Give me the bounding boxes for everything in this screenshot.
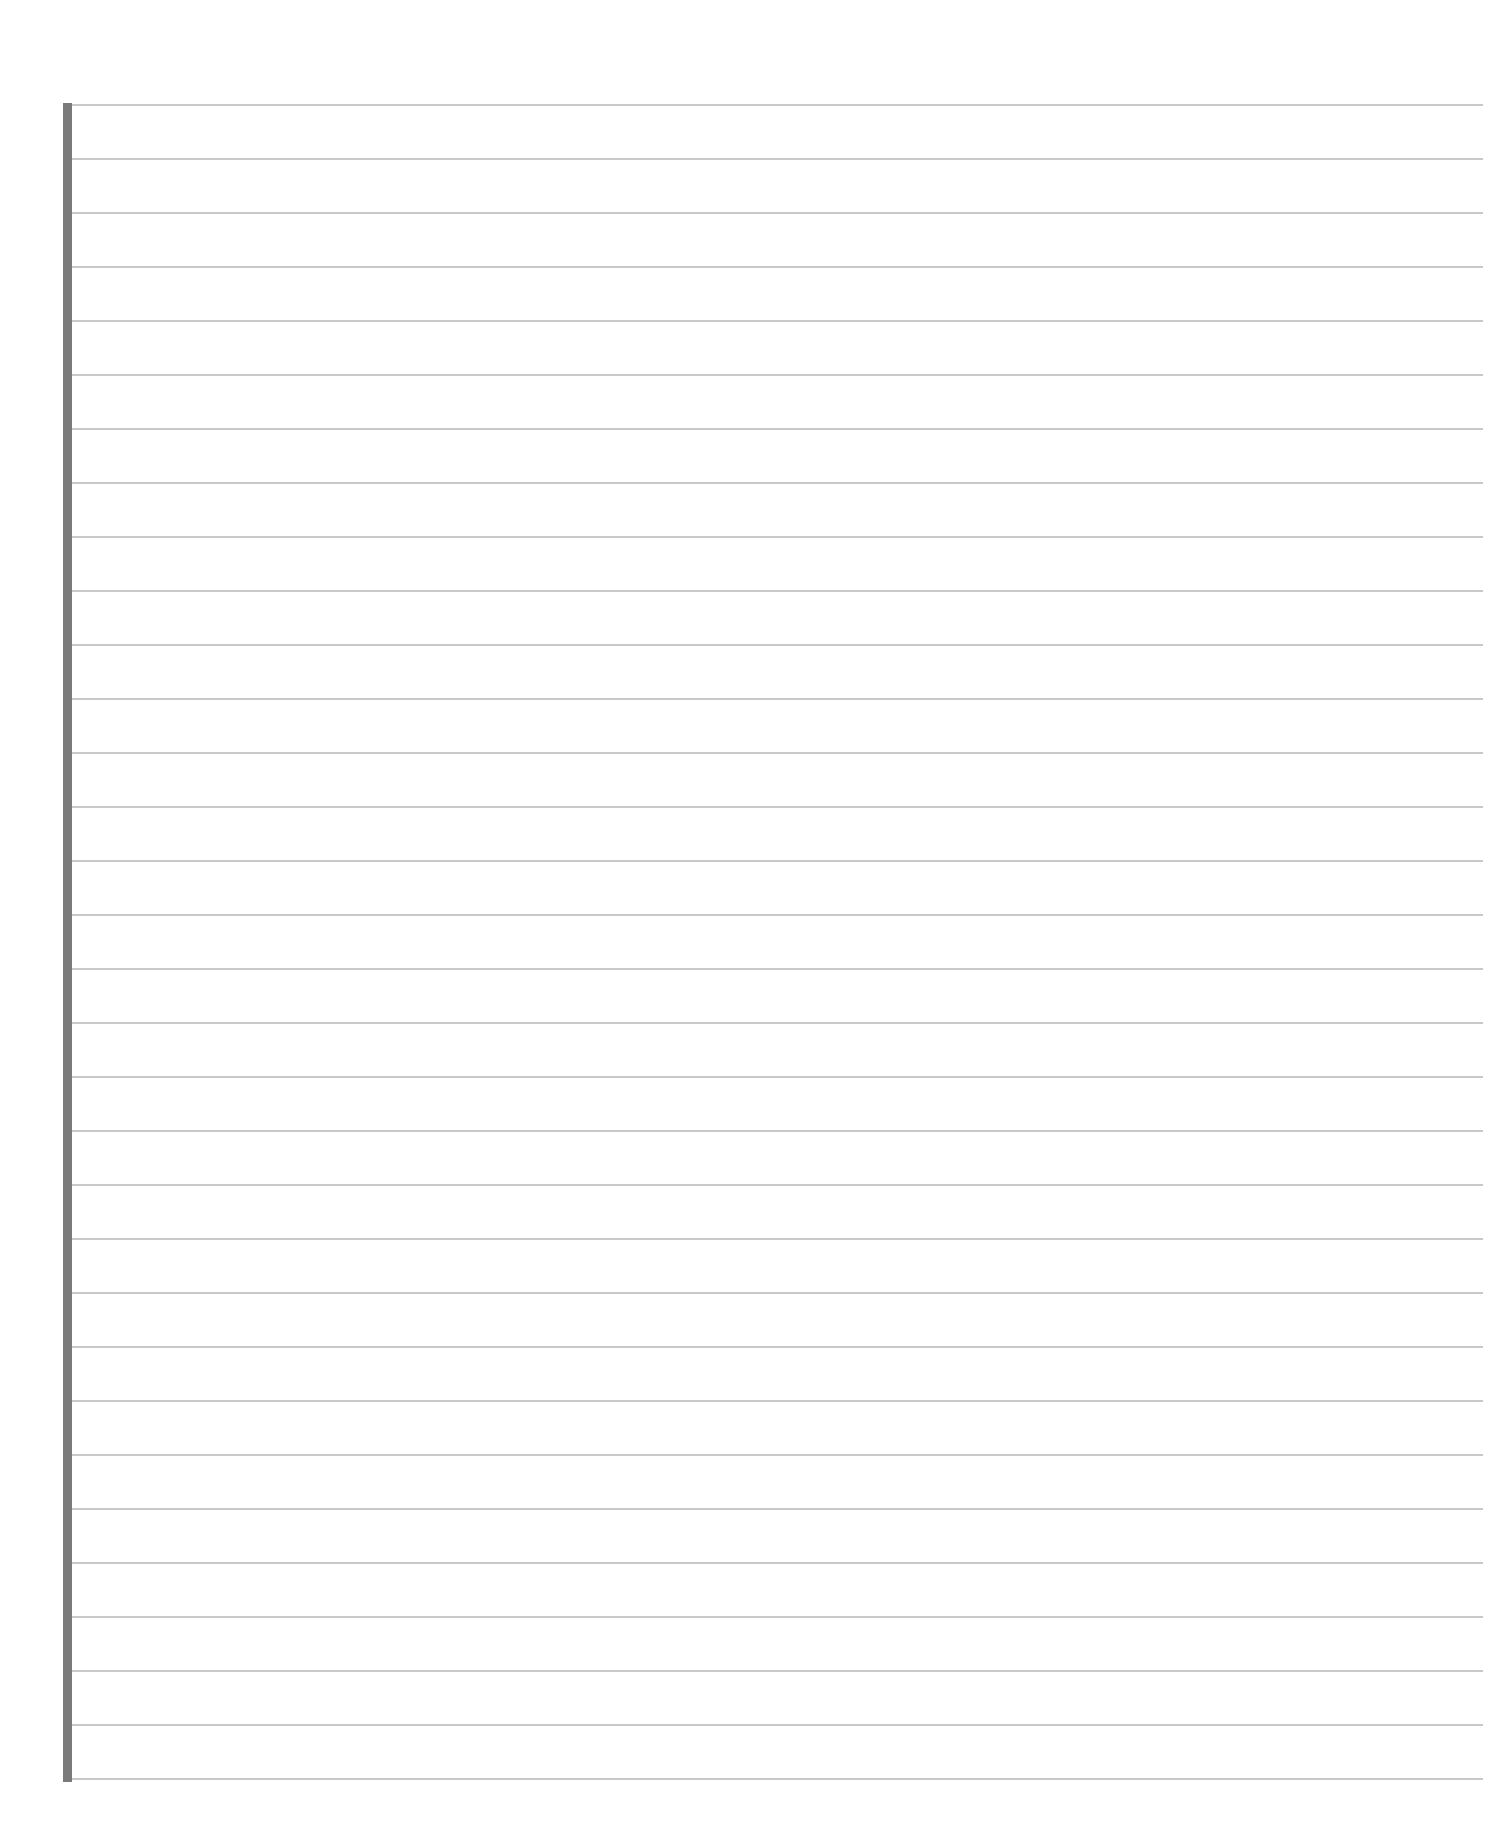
ruled-line [72, 698, 1483, 700]
left-margin-bar [63, 103, 72, 1782]
ruled-line [72, 374, 1483, 376]
ruled-line [72, 752, 1483, 754]
ruled-line [72, 860, 1483, 862]
ruled-line [72, 1670, 1483, 1672]
ruled-line [72, 590, 1483, 592]
ruled-line [72, 1238, 1483, 1240]
ruled-line [72, 158, 1483, 160]
ruled-line [72, 1724, 1483, 1726]
ruled-line [72, 482, 1483, 484]
ruled-line [72, 1616, 1483, 1618]
ruled-line [72, 1022, 1483, 1024]
ruled-line [72, 914, 1483, 916]
lined-paper-page [0, 0, 1490, 1837]
ruled-line [72, 1562, 1483, 1564]
ruled-line [72, 266, 1483, 268]
ruled-line [72, 1778, 1483, 1780]
ruled-line [72, 212, 1483, 214]
ruled-line [72, 1508, 1483, 1510]
ruled-line [72, 1076, 1483, 1078]
ruled-line [72, 104, 1483, 106]
ruled-line [72, 1346, 1483, 1348]
ruled-line [72, 536, 1483, 538]
ruled-line [72, 968, 1483, 970]
ruled-line [72, 320, 1483, 322]
ruled-line [72, 1400, 1483, 1402]
ruled-line [72, 806, 1483, 808]
ruled-line [72, 1184, 1483, 1186]
ruled-line [72, 644, 1483, 646]
ruled-line [72, 1130, 1483, 1132]
ruled-line [72, 1454, 1483, 1456]
ruled-line [72, 428, 1483, 430]
ruled-line [72, 1292, 1483, 1294]
